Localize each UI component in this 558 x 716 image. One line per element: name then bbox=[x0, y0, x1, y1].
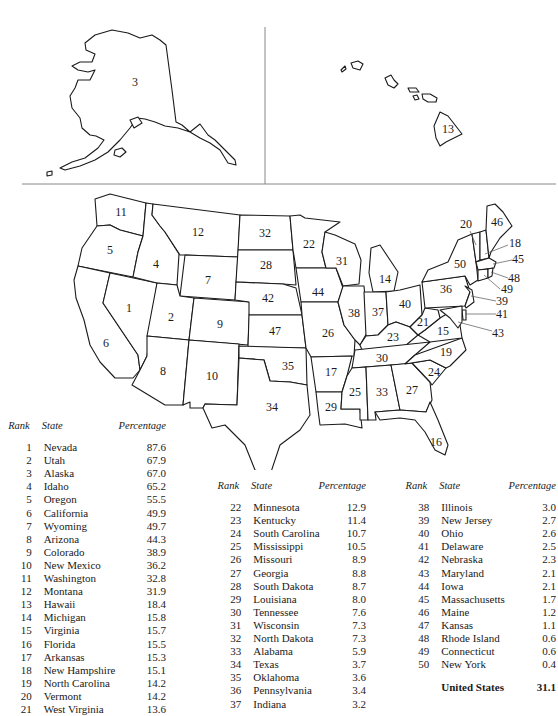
state-alaska bbox=[60, 30, 236, 170]
percentage-cell: 2.6 bbox=[517, 527, 556, 540]
percentage-cell: 18.4 bbox=[125, 598, 166, 611]
state-cell: Alaska bbox=[44, 467, 125, 480]
table-row: 46Maine1.2 bbox=[404, 606, 556, 619]
table-row: 47Kansas1.1 bbox=[404, 619, 556, 632]
table-row: 45Massachusetts1.7 bbox=[404, 593, 556, 606]
table-row: 33Alabama5.9 bbox=[216, 645, 366, 658]
table-row: 29Louisiana8.0 bbox=[216, 593, 366, 606]
rank-label-tennessee: 30 bbox=[376, 351, 388, 365]
rank-cell: 24 bbox=[216, 527, 253, 540]
table-header: RankStatePercentage bbox=[6, 419, 166, 432]
percentage-cell: 13.6 bbox=[125, 703, 166, 716]
table-row: 16Florida15.5 bbox=[6, 638, 166, 651]
rank-label-idaho: 4 bbox=[153, 257, 159, 271]
percentage-cell: 0.6 bbox=[517, 645, 556, 658]
state-cell: Vermont bbox=[44, 690, 125, 703]
state-connecticut bbox=[478, 269, 488, 281]
percentage-cell: 36.2 bbox=[125, 559, 166, 572]
table-row: 11Washington32.8 bbox=[6, 572, 166, 585]
rank-cell: 34 bbox=[216, 658, 253, 671]
rank-cell: 31 bbox=[216, 619, 253, 632]
rank-cell: 30 bbox=[216, 606, 253, 619]
table-row: 3Alaska67.0 bbox=[6, 467, 166, 480]
rank-cell: 9 bbox=[6, 546, 44, 559]
rank-cell: 16 bbox=[6, 638, 44, 651]
table-row: 10New Mexico36.2 bbox=[6, 559, 166, 572]
rank-label-california: 6 bbox=[103, 336, 109, 350]
hawaii-island-kauai bbox=[351, 61, 363, 70]
state-cell: Wyoming bbox=[44, 520, 125, 533]
percentage-cell: 0.6 bbox=[517, 632, 556, 645]
rank-cell: 3 bbox=[6, 467, 44, 480]
state-cell: Oklahoma bbox=[253, 671, 327, 684]
percentage-cell: 87.6 bbox=[125, 441, 166, 454]
rank-label-massachusetts: 45 bbox=[512, 252, 524, 266]
table-row: 40Ohio2.6 bbox=[404, 527, 556, 540]
rank-cell: 25 bbox=[216, 540, 253, 553]
state-cell: Hawaii bbox=[44, 598, 125, 611]
table-header: RankStatePercentage bbox=[216, 479, 366, 492]
rank-cell: 42 bbox=[404, 553, 441, 566]
table-row: 20Vermont14.2 bbox=[6, 690, 166, 703]
percentage-cell: 15.1 bbox=[125, 664, 166, 677]
total-state: United States bbox=[441, 681, 517, 694]
rank-cell: 20 bbox=[6, 690, 44, 703]
rank-label-utah: 2 bbox=[168, 310, 174, 324]
percentage-cell: 2.5 bbox=[517, 540, 556, 553]
table-row: 13Hawaii18.4 bbox=[6, 598, 166, 611]
rank-cell: 43 bbox=[404, 567, 441, 580]
rank-label-kentucky: 23 bbox=[387, 330, 399, 344]
percentage-cell: 8.7 bbox=[327, 580, 366, 593]
rank-label-oklahoma: 35 bbox=[282, 359, 294, 373]
rank-label-florida: 16 bbox=[430, 435, 442, 449]
rank-label-new-hampshire: 18 bbox=[509, 236, 521, 250]
header-rank: Rank bbox=[404, 479, 439, 492]
percentage-cell: 3.4 bbox=[327, 684, 366, 697]
rank-cell: 13 bbox=[6, 598, 44, 611]
state-cell: Florida bbox=[44, 638, 125, 651]
table-row: 32North Dakota7.3 bbox=[216, 632, 366, 645]
rank-cell: 4 bbox=[6, 480, 44, 493]
rank-cell: 50 bbox=[404, 658, 441, 671]
rank-label-south-carolina: 24 bbox=[428, 365, 440, 379]
table-row: 35Oklahoma3.6 bbox=[216, 671, 366, 684]
percentage-cell: 15.8 bbox=[125, 611, 166, 624]
rank-cell: 33 bbox=[216, 645, 253, 658]
rank-cell: 28 bbox=[216, 580, 253, 593]
rank-label-connecticut: 49 bbox=[501, 282, 513, 296]
state-cell: Colorado bbox=[44, 546, 125, 559]
rank-cell: 49 bbox=[404, 645, 441, 658]
percentage-cell: 67.0 bbox=[125, 467, 166, 480]
rank-cell: 12 bbox=[6, 585, 44, 598]
table-row: 6California49.9 bbox=[6, 507, 166, 520]
percentage-cell: 3.2 bbox=[327, 698, 366, 711]
rank-label-vermont: 20 bbox=[460, 217, 472, 231]
table-row: 19North Carolina14.2 bbox=[6, 677, 166, 690]
state-cell: Tennessee bbox=[253, 606, 327, 619]
table-row: 15Virginia15.7 bbox=[6, 624, 166, 637]
state-cell: Massachusetts bbox=[441, 593, 517, 606]
table-row: 4Idaho65.2 bbox=[6, 480, 166, 493]
table-header: RankStatePercentage bbox=[404, 479, 556, 492]
state-cell: Louisiana bbox=[253, 593, 327, 606]
state-cell: Arizona bbox=[44, 533, 125, 546]
rank-label-arizona: 8 bbox=[160, 364, 166, 378]
rank-cell: 36 bbox=[216, 684, 253, 697]
percentage-cell: 1.2 bbox=[517, 606, 556, 619]
rank-cell: 40 bbox=[404, 527, 441, 540]
rank-cell: 23 bbox=[216, 514, 253, 527]
percentage-cell: 49.9 bbox=[125, 507, 166, 520]
rank-label-michigan: 14 bbox=[379, 272, 391, 286]
state-cell: Connecticut bbox=[441, 645, 517, 658]
table-row: 1Nevada87.6 bbox=[6, 441, 166, 454]
rank-label-texas: 34 bbox=[266, 400, 278, 414]
state-cell: Kentucky bbox=[253, 514, 327, 527]
rank-label-new-mexico: 10 bbox=[206, 369, 218, 383]
rank-label-ohio: 40 bbox=[399, 297, 411, 311]
table-row: 27Georgia8.8 bbox=[216, 567, 366, 580]
rank-table-2: RankStatePercentage22Minnesota12.923Kent… bbox=[216, 479, 366, 711]
state-cell: Alabama bbox=[253, 645, 327, 658]
percentage-cell: 0.4 bbox=[517, 658, 556, 671]
state-cell: West Virginia bbox=[44, 703, 125, 716]
table-row: 18New Hampshire15.1 bbox=[6, 664, 166, 677]
